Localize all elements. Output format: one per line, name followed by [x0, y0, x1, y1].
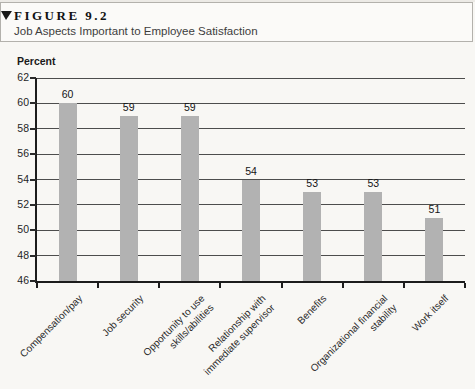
- y-axis-title: Percent: [17, 55, 56, 67]
- bar-value-label: 59: [114, 101, 144, 113]
- bar: [242, 180, 260, 282]
- figure-number: FIGURE 9.2: [14, 8, 109, 24]
- y-tick: [30, 255, 36, 257]
- y-tick-label: 48: [3, 249, 29, 261]
- y-tick-label: 46: [3, 274, 29, 286]
- figure-title: Job Aspects Important to Employee Satisf…: [14, 25, 258, 37]
- bar: [181, 116, 199, 281]
- y-tick-label: 58: [3, 122, 29, 134]
- bar-value-label: 59: [175, 101, 205, 113]
- gridline: [37, 103, 465, 104]
- x-tick: [281, 283, 283, 288]
- y-tick: [30, 102, 36, 104]
- y-tick: [30, 77, 36, 79]
- bar: [364, 192, 382, 281]
- y-tick: [30, 128, 36, 130]
- bar: [120, 116, 138, 281]
- bar: [59, 103, 77, 281]
- gridline: [37, 154, 465, 155]
- bar-value-label: 53: [297, 177, 327, 189]
- gridline: [37, 78, 465, 79]
- x-tick: [36, 283, 38, 288]
- x-tick: [342, 283, 344, 288]
- gridline: [37, 128, 465, 129]
- bar-value-label: 51: [419, 203, 449, 215]
- bar-value-label: 53: [358, 177, 388, 189]
- x-tick: [464, 283, 466, 288]
- plot-area: 46485052545658606260Compensation/pay59Jo…: [35, 78, 465, 283]
- x-tick: [403, 283, 405, 288]
- y-tick-label: 54: [3, 173, 29, 185]
- bar: [303, 192, 321, 281]
- category-label: Organizational financial stability: [275, 292, 399, 389]
- y-tick-label: 52: [3, 198, 29, 210]
- y-tick: [30, 229, 36, 231]
- y-tick-label: 50: [3, 223, 29, 235]
- y-tick: [30, 179, 36, 181]
- figure-header: FIGURE 9.2 Job Aspects Important to Empl…: [0, 2, 473, 42]
- y-tick: [30, 280, 36, 282]
- bar: [425, 218, 443, 281]
- y-tick-label: 62: [3, 71, 29, 83]
- x-tick: [219, 283, 221, 288]
- x-tick: [97, 283, 99, 288]
- y-tick-label: 56: [3, 147, 29, 159]
- y-tick: [30, 153, 36, 155]
- bar-value-label: 54: [236, 165, 266, 177]
- y-tick-label: 60: [3, 96, 29, 108]
- scanned-figure-page: FIGURE 9.2 Job Aspects Important to Empl…: [0, 0, 475, 389]
- x-tick: [158, 283, 160, 288]
- bar-value-label: 60: [53, 88, 83, 100]
- figure-marker-icon: [1, 11, 12, 20]
- y-tick: [30, 204, 36, 206]
